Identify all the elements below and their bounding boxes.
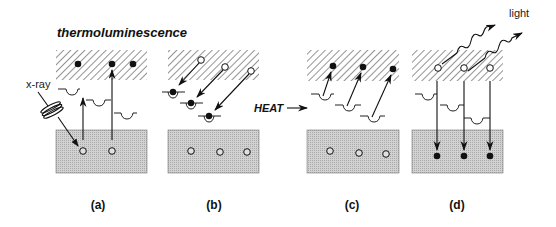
electron-icon xyxy=(390,66,397,73)
panel-b: (b) xyxy=(162,50,259,212)
trap-icon xyxy=(58,89,80,95)
hole-icon xyxy=(188,148,195,155)
trapped-electron-icon xyxy=(180,100,203,109)
panel-label-b: (b) xyxy=(206,198,221,212)
trap-icon xyxy=(415,94,437,100)
trap-icon xyxy=(86,100,111,106)
trapped-electron-icon xyxy=(162,89,185,98)
hole-icon xyxy=(198,57,205,64)
trap-icon xyxy=(440,105,464,111)
hole-icon xyxy=(356,150,363,157)
conduction-band xyxy=(307,50,399,81)
diagram-title: thermoluminescence xyxy=(57,25,187,40)
panel-c: (c) xyxy=(307,50,399,212)
trap-icon xyxy=(464,118,490,124)
valence-band xyxy=(56,130,147,173)
heat-label: HEAT xyxy=(254,102,284,114)
hole-icon xyxy=(80,148,87,155)
hole-icon xyxy=(383,151,390,158)
thermoluminescence-diagram: thermoluminescence x-ray (a) xyxy=(0,0,556,227)
hole-icon xyxy=(109,148,116,155)
photon-wave-icon xyxy=(457,25,495,53)
release-arrow xyxy=(372,75,391,117)
xray-label: x-ray xyxy=(26,78,51,90)
conduction-band xyxy=(168,50,259,80)
hole-icon xyxy=(217,149,224,156)
electron-icon xyxy=(487,153,494,160)
panel-label-a: (a) xyxy=(91,198,106,212)
hole-icon xyxy=(327,148,334,155)
panel-label-d: (d) xyxy=(449,198,464,212)
trap-icon xyxy=(335,105,361,111)
hole-icon xyxy=(461,65,468,72)
electron-icon xyxy=(434,153,441,160)
electron-icon xyxy=(360,64,367,71)
trapped-electron-icon xyxy=(198,113,221,122)
panel-label-c: (c) xyxy=(345,198,360,212)
panel-a: x-ray (a) xyxy=(26,50,147,212)
electron-icon xyxy=(130,61,137,68)
valence-band xyxy=(412,130,503,173)
hole-icon xyxy=(487,65,494,72)
trap-icon xyxy=(311,94,334,100)
electron-icon xyxy=(75,61,82,68)
hole-icon xyxy=(435,65,442,72)
xray-pointer xyxy=(38,92,48,106)
electron-icon xyxy=(109,61,116,68)
trap-icon xyxy=(114,113,137,119)
hole-icon xyxy=(244,149,251,156)
xray-wave-icon xyxy=(40,100,64,120)
hole-icon xyxy=(248,68,255,75)
electron-icon xyxy=(461,153,468,160)
light-label: light xyxy=(509,7,529,19)
panel-d: light (d) xyxy=(412,7,529,212)
hole-icon xyxy=(222,64,229,71)
electron-icon xyxy=(330,63,337,70)
